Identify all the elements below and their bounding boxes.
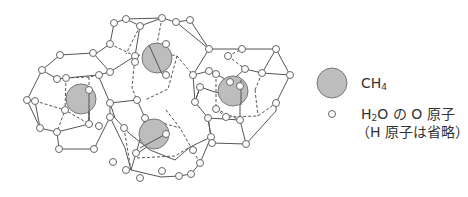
legend-label-oxygen-note: （H 原子は省略） — [356, 124, 468, 140]
clathrate-diagram — [0, 0, 468, 197]
methane-molecules — [66, 43, 248, 149]
legend-methane-icon — [317, 68, 347, 98]
legend-label-ch4: CH4 — [361, 75, 387, 95]
legend-oxygen-icon — [329, 111, 336, 118]
legend-symbols — [317, 68, 347, 118]
legend-label-oxygen: H2O の O 原子 — [361, 106, 455, 126]
